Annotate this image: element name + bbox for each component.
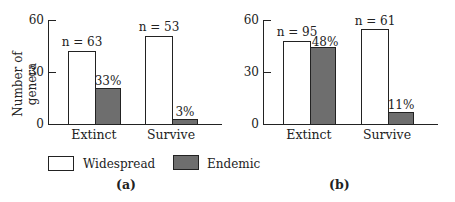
y-tick-60-b: 60 (237, 14, 259, 26)
legend-label-endemic: Endemic (207, 157, 260, 171)
tick-30-b (263, 72, 271, 73)
panel-tag-b: (b) (329, 178, 350, 192)
y-tick-30-b: 30 (237, 66, 259, 78)
panel-b: 60 30 0 n = 95 48% Extinct n = 61 11% Su… (0, 0, 455, 140)
bar-survive-endemic-b (388, 112, 414, 125)
n-label-survive-b: n = 61 (345, 15, 405, 27)
pct-label-extinct-b: 48% (295, 36, 355, 48)
bar-extinct-endemic-b (310, 47, 336, 125)
category-survive-b: Survive (352, 128, 422, 141)
legend-label-widespread: Widespread (83, 157, 155, 171)
panel-tag-a: (a) (116, 178, 136, 192)
legend-swatch-endemic (173, 155, 199, 170)
category-extinct-b: Extinct (274, 128, 344, 141)
bar-extinct-widespread-b (283, 41, 311, 125)
y-tick-0-b: 0 (237, 118, 259, 130)
legend-swatch-widespread (48, 156, 74, 171)
tick-60-b (263, 20, 271, 21)
pct-label-survive-b: 11% (371, 99, 431, 111)
